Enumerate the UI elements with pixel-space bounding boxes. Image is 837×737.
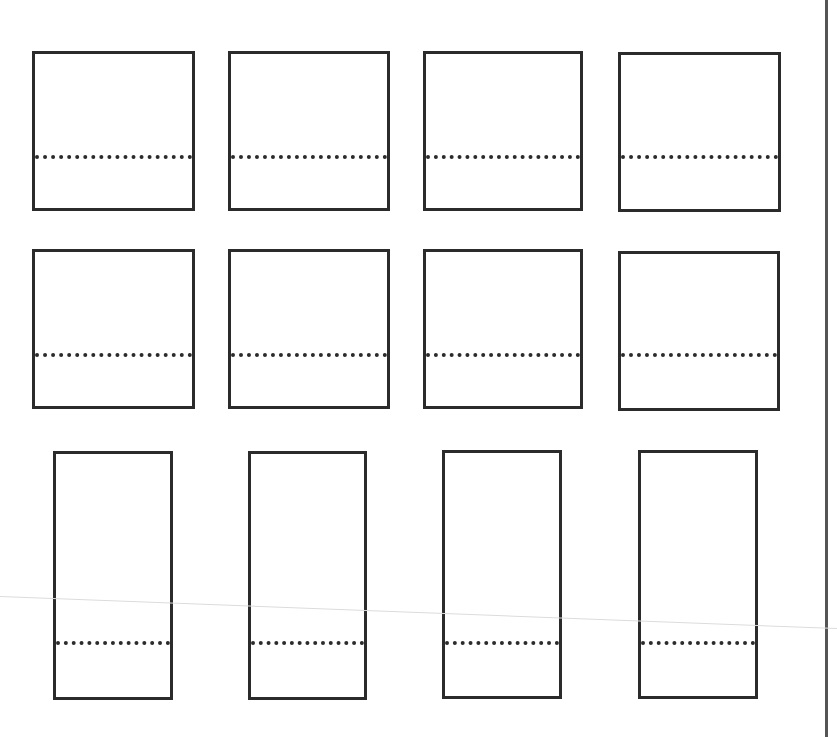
answer-box-1-2 bbox=[228, 51, 390, 211]
answer-box-3-3 bbox=[442, 450, 562, 699]
answer-box-2-3 bbox=[423, 249, 583, 409]
dotted-divider-line bbox=[641, 641, 755, 645]
dotted-divider-line bbox=[251, 641, 364, 645]
page-edge-rule bbox=[825, 0, 828, 737]
answer-box-1-4 bbox=[618, 52, 781, 212]
answer-box-3-2 bbox=[248, 451, 367, 700]
dotted-divider-line bbox=[445, 641, 559, 645]
answer-box-2-2 bbox=[228, 249, 390, 409]
dotted-divider-line bbox=[621, 155, 778, 159]
dotted-divider-line bbox=[56, 641, 170, 645]
dotted-divider-line bbox=[231, 353, 387, 357]
answer-box-2-4 bbox=[618, 251, 780, 411]
answer-box-3-4 bbox=[638, 450, 758, 699]
answer-box-1-3 bbox=[423, 51, 583, 211]
dotted-divider-line bbox=[35, 353, 192, 357]
dotted-divider-line bbox=[426, 155, 580, 159]
answer-box-1-1 bbox=[32, 51, 195, 211]
dotted-divider-line bbox=[426, 353, 580, 357]
answer-box-3-1 bbox=[53, 451, 173, 700]
answer-box-2-1 bbox=[32, 249, 195, 409]
dotted-divider-line bbox=[621, 353, 777, 357]
dotted-divider-line bbox=[35, 155, 192, 159]
dotted-divider-line bbox=[231, 155, 387, 159]
